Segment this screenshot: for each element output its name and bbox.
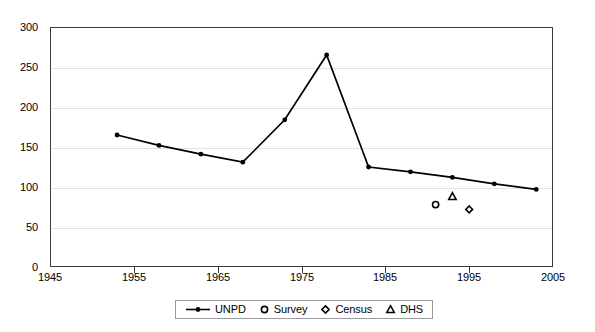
legend-label-dhs: DHS [400, 304, 423, 315]
legend-item-unpd[interactable]: UNPD [185, 304, 246, 315]
legend-label-survey: Survey [274, 304, 308, 315]
gridline-200 [51, 108, 552, 109]
gridline-150 [51, 148, 552, 149]
y-tick-label-200: 200 [0, 102, 38, 113]
legend-item-survey[interactable]: Survey [259, 304, 308, 315]
x-tick-label-1975: 1975 [272, 272, 332, 283]
x-tick-label-1965: 1965 [188, 272, 248, 283]
circle-marker-icon [259, 304, 270, 315]
chart-legend: UNPD Survey Census D [175, 300, 433, 319]
chart-container: 300 250 200 150 100 50 0 1945 1955 1965 … [0, 0, 595, 332]
gridline-100 [51, 188, 552, 189]
legend-item-census[interactable]: Census [320, 304, 372, 315]
y-tick-label-250: 250 [0, 62, 38, 73]
legend-label-census: Census [335, 304, 372, 315]
legend-item-dhs[interactable]: DHS [385, 304, 423, 315]
y-tick-label-300: 300 [0, 22, 38, 33]
gridline-250 [51, 68, 552, 69]
diamond-marker-icon [320, 304, 331, 315]
x-tick-label-1955: 1955 [104, 272, 164, 283]
y-tick-label-100: 100 [0, 182, 38, 193]
x-tick-label-1985: 1985 [355, 272, 415, 283]
gridline-50 [51, 228, 552, 229]
legend-label-unpd: UNPD [215, 304, 246, 315]
x-tick-label-1995: 1995 [439, 272, 499, 283]
triangle-marker-icon [385, 304, 396, 315]
y-tick-label-50: 50 [0, 222, 38, 233]
x-tick-label-2005: 2005 [523, 272, 583, 283]
line-dot-marker-icon [185, 304, 211, 315]
y-tick-label-150: 150 [0, 142, 38, 153]
x-tick-label-1945: 1945 [20, 272, 80, 283]
plot-area [50, 27, 553, 267]
